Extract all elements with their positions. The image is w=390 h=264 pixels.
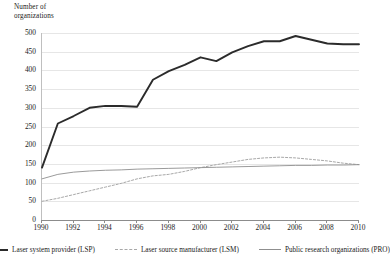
x-tick-label: 2000 [184,224,216,232]
x-tick-label: 2004 [247,224,279,232]
y-tick-label: 100 [0,179,36,187]
x-tick-label: 2002 [215,224,247,232]
x-tick-mark [168,220,169,223]
solid-bold-line-icon [0,248,8,252]
x-tick-label: 1998 [152,224,184,232]
x-tick-label: 2010 [342,224,374,232]
x-tick-label: 1996 [120,224,152,232]
legend-item-lsp: Laser system provider (LSP) [0,246,95,254]
x-tick-mark [200,220,201,223]
y-tick-label: 50 [0,197,36,205]
x-tick-label: 2006 [279,224,311,232]
chart-lines [42,33,359,220]
x-tick-mark [295,220,296,223]
y-tick-label: 400 [0,66,36,74]
y-tick-label: 300 [0,104,36,112]
y-tick-label: 450 [0,48,36,56]
chart-legend: Laser system provider (LSP) Laser source… [0,243,376,257]
legend-label-lsm: Laser source manufacturer (LSM) [141,246,239,254]
solid-thin-line-icon [259,248,281,252]
x-tick-mark [104,220,105,223]
x-tick-mark [231,220,232,223]
dashed-line-icon [115,248,137,252]
y-tick-label: 500 [0,29,36,37]
x-tick-label: 1992 [57,224,89,232]
y-tick-label: 150 [0,160,36,168]
y-tick-label: 0 [0,216,36,224]
x-tick-label: 1990 [25,224,57,232]
legend-item-lsm: Laser source manufacturer (LSM) [115,246,239,254]
legend-label-pro: Public research organizations (PRO) [285,246,390,254]
x-tick-mark [136,220,137,223]
x-tick-label: 2008 [310,224,342,232]
legend-item-pro: Public research organizations (PRO) [259,246,390,254]
series-line [42,165,359,179]
y-tick-label: 350 [0,85,36,93]
series-line [42,36,359,168]
x-tick-mark [41,220,42,223]
x-tick-label: 1994 [88,224,120,232]
plot-area [41,33,359,221]
x-tick-mark [326,220,327,223]
series-line [42,157,359,201]
y-tick-label: 200 [0,141,36,149]
x-tick-mark [358,220,359,223]
x-tick-mark [263,220,264,223]
legend-label-lsp: Laser system provider (LSP) [12,246,95,254]
x-tick-mark [73,220,74,223]
y-tick-label: 250 [0,123,36,131]
